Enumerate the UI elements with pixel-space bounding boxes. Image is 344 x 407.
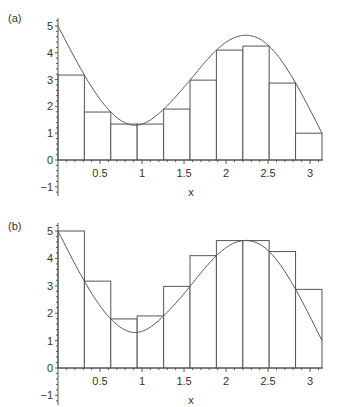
bar <box>84 112 110 160</box>
bar <box>164 286 190 368</box>
bars <box>58 231 322 368</box>
x-axis-label: x <box>188 186 194 198</box>
x-tick-label: 3 <box>307 167 313 179</box>
chart-panel-a: −10123450.511.522.53x(a) <box>8 12 323 198</box>
bar <box>164 109 190 160</box>
bar <box>111 319 137 368</box>
y-tick-label: 0 <box>47 154 53 166</box>
y-tick-label: 4 <box>47 252 53 264</box>
bar <box>190 256 216 368</box>
x-tick-label: 0.5 <box>92 167 107 179</box>
bar <box>58 231 84 368</box>
riemann-sum-figure: −10123450.511.522.53x(a) −10123450.511.5… <box>0 0 344 407</box>
y-tick-label: 2 <box>47 100 53 112</box>
x-tick-label: 1 <box>139 167 145 179</box>
bar <box>269 252 295 368</box>
x-tick-label: 2 <box>223 375 229 387</box>
x-tick-label: 2 <box>223 167 229 179</box>
y-tick-label: 3 <box>47 74 53 86</box>
bar <box>137 316 163 368</box>
bar <box>296 289 322 368</box>
bar <box>137 124 163 160</box>
x-tick-label: 3 <box>307 375 313 387</box>
panel-label: (a) <box>8 12 21 24</box>
bar <box>296 133 322 160</box>
bars <box>58 46 322 160</box>
x-tick-label: 2.5 <box>260 375 275 387</box>
bar <box>111 124 137 160</box>
bar <box>190 80 216 160</box>
bar <box>243 46 269 160</box>
bar <box>58 75 84 160</box>
y-tick-label: 2 <box>47 307 53 319</box>
x-tick-label: 1.5 <box>176 167 191 179</box>
bar <box>243 241 269 368</box>
bar <box>84 281 110 368</box>
y-tick-label: 3 <box>47 280 53 292</box>
y-tick-label: −1 <box>40 181 53 193</box>
panel-label: (b) <box>8 220 21 232</box>
x-tick-label: 2.5 <box>260 167 275 179</box>
y-tick-label: 1 <box>47 127 53 139</box>
bar <box>216 50 242 160</box>
x-axis-label: x <box>188 394 194 406</box>
y-tick-label: 0 <box>47 362 53 374</box>
x-tick-label: 0.5 <box>92 375 107 387</box>
y-tick-label: 5 <box>47 20 53 32</box>
y-tick-label: 5 <box>47 225 53 237</box>
y-tick-label: 1 <box>47 335 53 347</box>
x-tick-label: 1.5 <box>176 375 191 387</box>
x-tick-label: 1 <box>139 375 145 387</box>
bar <box>216 241 242 368</box>
chart-panel-b: −10123450.511.522.53x(b) <box>8 220 323 406</box>
bar <box>269 83 295 160</box>
y-tick-label: −1 <box>40 389 53 401</box>
y-tick-label: 4 <box>47 47 53 59</box>
